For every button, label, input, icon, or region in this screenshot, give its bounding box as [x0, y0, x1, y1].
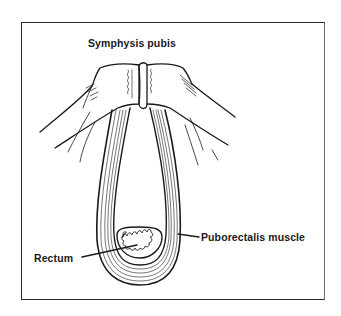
- rectum: [117, 227, 162, 258]
- puborectalis-leader: [178, 234, 199, 237]
- pubic-bone-right: [147, 64, 235, 145]
- label-symphysis-pubis: Symphysis pubis: [88, 37, 176, 49]
- lateral-fibers: [68, 112, 218, 165]
- label-puborectalis-muscle: Puborectalis muscle: [201, 231, 305, 243]
- label-rectum: Rectum: [34, 252, 73, 264]
